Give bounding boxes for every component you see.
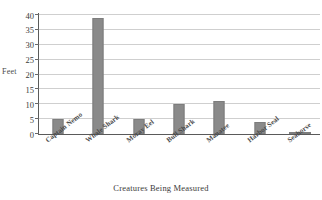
bar-slot (159, 15, 199, 134)
bar (93, 18, 104, 134)
y-axis-tick-label: 35 (16, 25, 34, 35)
x-axis-label: Creatures Being Measured (0, 183, 322, 193)
y-axis-tick-label: 10 (16, 100, 34, 110)
chart-title (46, 0, 282, 4)
y-axis-tick-label: 25 (16, 55, 34, 65)
bar-chart-figure: Feet 0510152025303540 Captain NemoWhale … (0, 0, 322, 200)
y-axis-label: Feet (2, 67, 17, 76)
y-axis-tick-label: 40 (16, 11, 34, 21)
y-axis-tick-label: 30 (16, 40, 34, 50)
plot-area: 0510152025303540 Captain NemoWhale Shark… (38, 15, 320, 135)
bar-slot (199, 15, 239, 134)
bar-slot (280, 15, 320, 134)
y-axis-tick-label: 5 (16, 115, 34, 125)
y-axis-tick-label: 15 (16, 85, 34, 95)
bar-slot (119, 15, 159, 134)
y-axis-tick-label: 0 (16, 130, 34, 140)
y-axis-tick-label: 20 (16, 70, 34, 80)
